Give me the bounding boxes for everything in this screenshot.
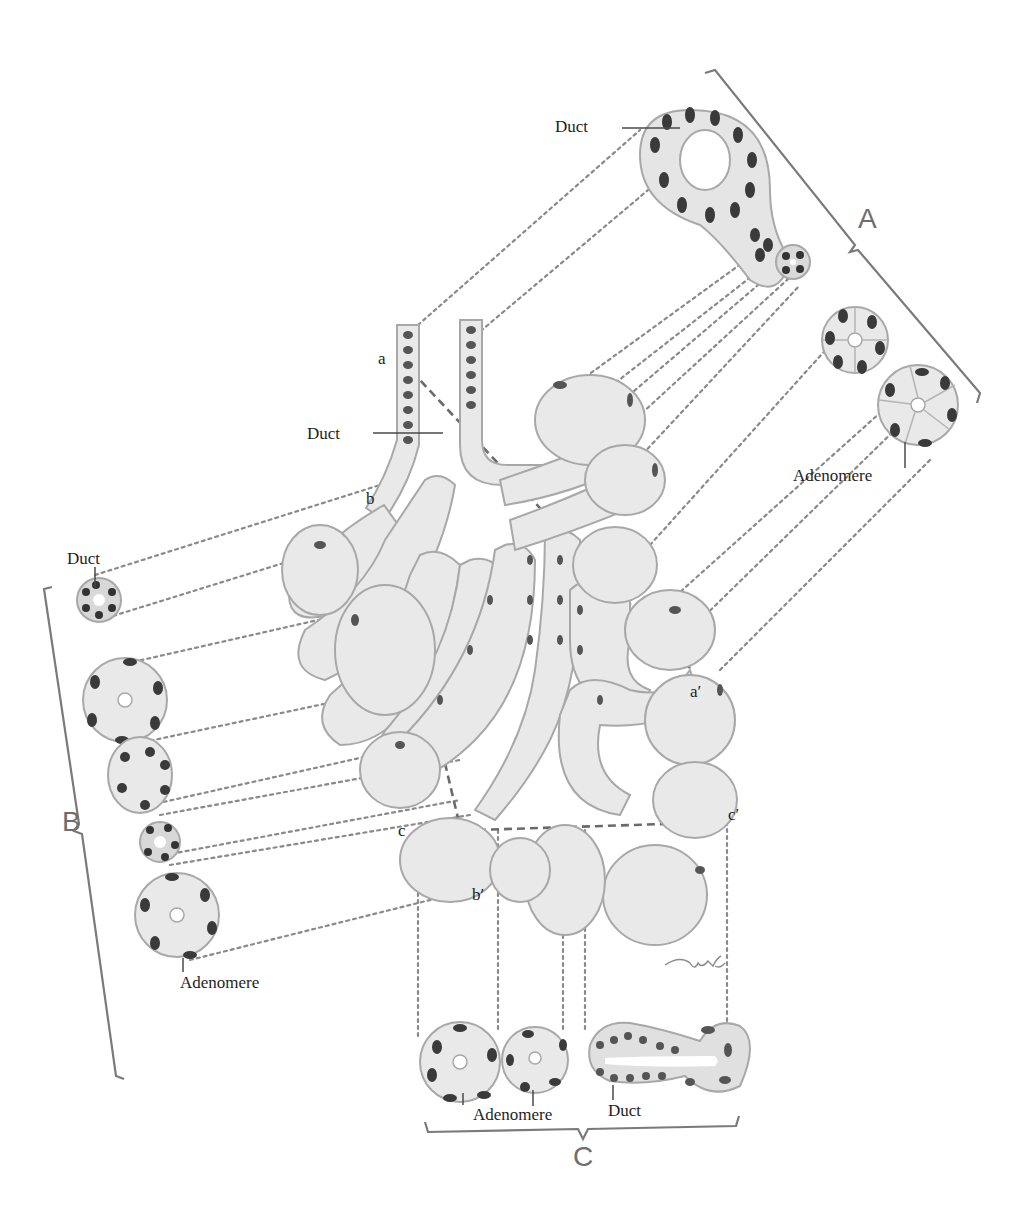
section-a-adenomere-large xyxy=(878,365,958,447)
section-letter-b: B xyxy=(62,808,81,836)
section-c-adenomere-2 xyxy=(502,1027,568,1093)
label-duct-bottom: Duct xyxy=(608,1102,641,1119)
gland-section-diagram: Duct Duct Duct Adenomere Adenomere Adeno… xyxy=(0,0,1033,1230)
section-b-duct-2 xyxy=(140,822,180,862)
section-a-duct xyxy=(640,107,810,287)
point-a-prime: a′ xyxy=(690,683,701,700)
point-c-prime: c′ xyxy=(728,806,739,823)
section-letter-c: C xyxy=(573,1143,593,1171)
label-adenomere-bottom: Adenomere xyxy=(473,1106,552,1123)
point-a: a xyxy=(378,350,386,367)
label-duct-main: Duct xyxy=(307,425,340,442)
section-c-adenomere-1 xyxy=(420,1022,500,1102)
section-b-adenomere-3 xyxy=(135,873,219,959)
section-c-duct xyxy=(589,1023,750,1092)
point-b: b xyxy=(366,490,375,507)
section-a-adenomere-small xyxy=(822,307,888,374)
label-adenomere-right: Adenomere xyxy=(793,467,872,484)
section-b-duct xyxy=(77,578,121,622)
label-duct-left: Duct xyxy=(67,550,100,567)
gland-body xyxy=(282,320,737,945)
label-duct-top: Duct xyxy=(555,118,588,135)
label-adenomere-left: Adenomere xyxy=(180,974,259,991)
diagram-canvas xyxy=(0,0,1033,1230)
section-letter-a: A xyxy=(858,205,877,233)
section-b-adenomere-2 xyxy=(108,737,172,813)
section-b-adenomere-1 xyxy=(83,658,167,744)
artist-signature xyxy=(665,956,725,967)
point-c: c xyxy=(398,822,406,839)
point-b-prime: b′ xyxy=(472,886,484,903)
